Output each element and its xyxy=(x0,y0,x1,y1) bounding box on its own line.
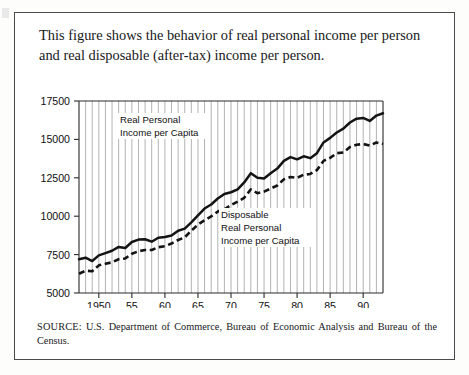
x-tick-label: 75 xyxy=(258,300,270,308)
figure-caption: This figure shows the behavior of real p… xyxy=(39,25,431,65)
income-line-chart: 5000750010000125001500017500 19505560657… xyxy=(15,83,456,308)
x-tick-label: 90 xyxy=(357,300,369,308)
page-background: This figure shows the behavior of real p… xyxy=(0,0,469,375)
annotation-disposable-real-personal-income: Disposable Real Personal Income per Capi… xyxy=(219,208,311,247)
y-tick-label: 15000 xyxy=(41,133,71,145)
x-tick-label: 80 xyxy=(291,300,303,308)
x-tick-label: 85 xyxy=(324,300,336,308)
figure-frame: This figure shows the behavior of real p… xyxy=(14,12,455,360)
y-tick-label: 7500 xyxy=(46,249,70,261)
source-label: SOURCE: xyxy=(37,321,82,332)
y-tick-label: 12500 xyxy=(41,172,71,184)
annotation-disposable-line1: Disposable xyxy=(221,209,268,220)
figure-source: SOURCE: U.S. Department of Commerce, Bur… xyxy=(37,320,437,348)
y-axis-tick-labels: 5000750010000125001500017500 xyxy=(41,95,71,299)
annotation-real-personal-income: Real Personal Income per Capita xyxy=(118,113,210,139)
annotation-personal-line2: Income per Capita xyxy=(120,127,199,138)
y-tick-label: 17500 xyxy=(41,95,71,107)
chart-container: 5000750010000125001500017500 19505560657… xyxy=(15,83,456,308)
annotation-disposable-line3: Income per Capita xyxy=(221,235,300,246)
x-tick-label: 55 xyxy=(126,300,138,308)
source-text: U.S. Department of Commerce, Bureau of E… xyxy=(37,321,437,346)
x-tick-label: 60 xyxy=(159,300,171,308)
x-tick-label: 1950 xyxy=(87,300,111,308)
x-tick-label: 70 xyxy=(225,300,237,308)
annotation-personal-line1: Real Personal xyxy=(120,114,180,125)
y-tick-label: 5000 xyxy=(46,287,70,299)
scan-edge-artifact xyxy=(2,8,9,18)
x-tick-label: 65 xyxy=(192,300,204,308)
annotation-disposable-line2: Real Personal xyxy=(221,222,281,233)
y-tick-label: 10000 xyxy=(41,210,71,222)
x-axis-tick-labels: 19505560657075808590 xyxy=(87,300,369,308)
